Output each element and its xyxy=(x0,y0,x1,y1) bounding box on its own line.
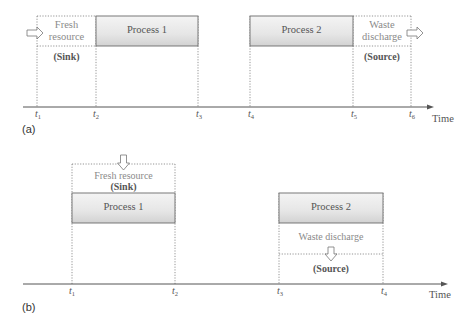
tick-t3-b: t3 xyxy=(277,285,283,297)
time-guides-a xyxy=(37,16,411,107)
process1-label-a: Process 1 xyxy=(127,24,167,35)
process2-label-b: Process 2 xyxy=(311,201,351,212)
waste-discharge-label-a-line2: discharge xyxy=(362,31,402,42)
waste-outflow-arrow-icon xyxy=(407,27,423,39)
sink-source-timing-diagram: Fresh resource (Sink) Process 1 Process … xyxy=(0,0,471,326)
panel-label-b: (b) xyxy=(22,301,35,313)
fresh-resource-inflow-arrow-icon xyxy=(118,155,130,170)
panel-b: Fresh resource (Sink) Process 1 Process … xyxy=(22,155,451,313)
source-role-label-a: (Source) xyxy=(364,51,400,63)
waste-discharge-label-b: Waste discharge xyxy=(299,231,364,242)
waste-discharge-label-a-line1: Waste xyxy=(369,19,395,30)
fresh-resource-label-a-line1: Fresh xyxy=(55,19,79,30)
time-axis-label-b: Time xyxy=(429,289,451,300)
process1-label-b: Process 1 xyxy=(104,201,144,212)
fresh-resource-label-b: Fresh resource xyxy=(94,170,153,181)
tick-t4-b: t4 xyxy=(381,285,388,297)
fresh-resource-inflow-arrow-icon xyxy=(27,27,43,39)
fresh-resource-label-a-line2: resource xyxy=(49,31,85,42)
panel-a: Fresh resource (Sink) Process 1 Process … xyxy=(22,16,454,135)
tick-t2-b: t2 xyxy=(172,285,178,297)
process2-label-a: Process 2 xyxy=(282,24,322,35)
tick-t4-a: t4 xyxy=(248,108,255,120)
sink-role-label-a: (Sink) xyxy=(53,51,79,63)
source-role-label-b: (Source) xyxy=(313,263,349,275)
time-axis-label-a: Time xyxy=(432,113,454,124)
tick-t6-a: t6 xyxy=(409,108,416,120)
time-axis-arrowhead-a-icon xyxy=(427,105,434,110)
tick-t1-b: t1 xyxy=(69,285,75,297)
tick-t2-a: t2 xyxy=(93,108,99,120)
tick-t1-a: t1 xyxy=(35,108,41,120)
tick-t3-a: t3 xyxy=(196,108,202,120)
panel-label-a: (a) xyxy=(22,123,35,135)
tick-t5-a: t5 xyxy=(351,108,357,120)
time-axis-arrowhead-b-icon xyxy=(441,282,448,287)
waste-outflow-arrow-icon xyxy=(325,247,337,261)
sink-role-label-b: (Sink) xyxy=(110,181,136,193)
